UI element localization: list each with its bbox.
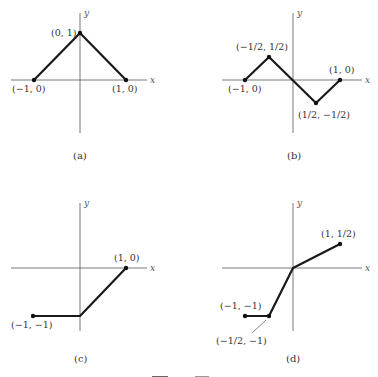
- point: [31, 314, 35, 318]
- point-label: (1, 0): [114, 252, 140, 263]
- point-label: (−1, 0): [228, 83, 262, 94]
- point-label: (1, 0): [329, 64, 355, 75]
- panel-caption: (c): [74, 353, 88, 364]
- point-label: (−1, −1): [220, 300, 261, 311]
- x-axis-label: x: [365, 263, 370, 273]
- y-axis-label: y: [296, 198, 303, 208]
- panel-d: x y (−1, −1) (−1/2, −1) (1, 1/2) (d): [216, 198, 370, 364]
- point: [32, 78, 36, 82]
- point-label: (1, 1/2): [321, 228, 356, 239]
- x-axis-label: x: [150, 75, 155, 85]
- point: [338, 242, 342, 246]
- point-label: (0, 1): [51, 27, 77, 38]
- y-axis-label: y: [296, 8, 303, 18]
- y-axis-label: y: [83, 8, 90, 18]
- point: [267, 314, 271, 318]
- point-label: (1/2, −1/2): [298, 109, 350, 120]
- point-label: (−1/2, −1): [216, 335, 267, 346]
- point: [267, 55, 271, 59]
- x-axis-label: x: [150, 263, 155, 273]
- panel-caption: (d): [286, 353, 300, 364]
- graph-line: [33, 268, 126, 316]
- point: [338, 78, 342, 82]
- figure: x y (−1, 0) (0, 1) (1, 0) (a) x y (−1, 0…: [0, 0, 378, 377]
- y-axis-label: y: [83, 198, 90, 208]
- point-label: (−1/2, 1/2): [236, 41, 288, 52]
- point: [78, 31, 82, 35]
- panel-a: x y (−1, 0) (0, 1) (1, 0) (a): [11, 8, 155, 161]
- x-axis-label: x: [365, 75, 370, 85]
- point-label: (−1, 0): [12, 83, 46, 94]
- point-label: (−1, −1): [11, 319, 52, 330]
- panel-caption: (b): [287, 150, 301, 161]
- pointer-arrow: [252, 320, 266, 333]
- panel-caption: (a): [73, 150, 87, 161]
- point: [124, 78, 128, 82]
- point-label: (1, 0): [112, 83, 138, 94]
- point: [314, 101, 318, 105]
- point: [243, 78, 247, 82]
- point: [243, 314, 247, 318]
- point: [124, 266, 128, 270]
- panel-c: x y (−1, −1) (1, 0) (c): [11, 198, 155, 364]
- panel-b: x y (−1, 0) (−1/2, 1/2) (1/2, −1/2) (1, …: [222, 8, 370, 161]
